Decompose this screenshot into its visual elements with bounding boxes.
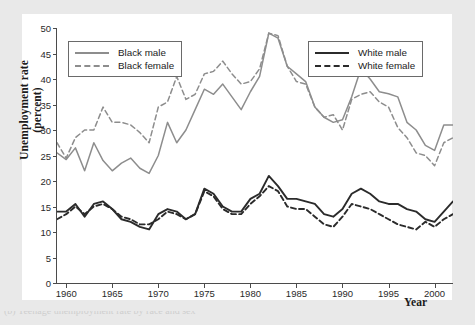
y-axis-tick-label: 0 bbox=[46, 278, 51, 289]
y-axis-tick-mark bbox=[53, 79, 58, 80]
legend-black: Black male Black female bbox=[68, 41, 182, 77]
y-axis-tick-label: 20 bbox=[40, 176, 51, 187]
y-axis-title-line1: Unemployment rate bbox=[18, 60, 30, 160]
x-axis-tick-mark bbox=[435, 283, 436, 288]
x-axis-tick-label: 1990 bbox=[332, 288, 353, 299]
line-solid-gray-icon bbox=[75, 48, 109, 58]
y-axis-tick-label: 35 bbox=[40, 99, 51, 110]
x-axis-tick-mark bbox=[158, 283, 159, 288]
series-line bbox=[57, 186, 453, 229]
line-dashed-gray-icon bbox=[75, 61, 109, 71]
x-axis-tick-label: 1975 bbox=[194, 288, 215, 299]
y-axis-tick-label: 5 bbox=[46, 252, 51, 263]
figure-caption-text: (b) Teenage unemployment rate by race an… bbox=[4, 311, 196, 316]
legend-white: White male White female bbox=[308, 41, 423, 77]
x-axis-tick-mark bbox=[389, 283, 390, 288]
y-axis-tick-label: 40 bbox=[40, 74, 51, 85]
y-axis-tick-mark bbox=[53, 283, 58, 284]
line-dashed-black-icon bbox=[315, 61, 349, 71]
legend-item: White female bbox=[315, 59, 415, 72]
x-axis-tick-label: 1965 bbox=[102, 288, 123, 299]
x-axis-tick-mark bbox=[250, 283, 251, 288]
x-axis-tick-label: 1985 bbox=[286, 288, 307, 299]
x-axis-tick-label: 1995 bbox=[378, 288, 399, 299]
y-axis-tick-mark bbox=[53, 207, 58, 208]
line-solid-black-icon bbox=[315, 48, 349, 58]
y-axis-tick-mark bbox=[53, 28, 58, 29]
legend-item-label: White male bbox=[358, 47, 407, 58]
legend-item-label: Black male bbox=[118, 47, 166, 58]
x-axis-tick-label: 2000 bbox=[424, 288, 445, 299]
x-axis-tick-mark bbox=[296, 283, 297, 288]
x-axis-tick-label: 1970 bbox=[148, 288, 169, 299]
legend-item-label: White female bbox=[358, 60, 415, 71]
y-axis-tick-label: 50 bbox=[40, 23, 51, 34]
y-axis-tick-mark bbox=[53, 130, 58, 131]
y-axis-tick-label: 15 bbox=[40, 201, 51, 212]
y-axis-tick-mark bbox=[53, 258, 58, 259]
y-axis-tick-mark bbox=[53, 156, 58, 157]
x-axis-tick-mark bbox=[342, 283, 343, 288]
y-axis-tick-label: 45 bbox=[40, 48, 51, 59]
x-axis-tick-label: 1980 bbox=[240, 288, 261, 299]
legend-item: Black female bbox=[75, 59, 174, 72]
y-axis-tick-label: 30 bbox=[40, 125, 51, 136]
chart-figure: Unemployment rate (percent) 051015202530… bbox=[0, 0, 475, 325]
y-axis-tick-label: 10 bbox=[40, 227, 51, 238]
x-axis-tick-mark bbox=[66, 283, 67, 288]
x-axis-title: Year bbox=[404, 296, 427, 308]
x-axis-tick-label: 1960 bbox=[56, 288, 77, 299]
y-axis-tick-mark bbox=[53, 54, 58, 55]
y-axis-tick-mark bbox=[53, 181, 58, 182]
y-axis-tick-mark bbox=[53, 232, 58, 233]
y-axis-tick-mark bbox=[53, 105, 58, 106]
y-axis-tick-label: 25 bbox=[40, 150, 51, 161]
legend-item: Black male bbox=[75, 46, 174, 59]
legend-item-label: Black female bbox=[118, 60, 174, 71]
x-axis-tick-mark bbox=[204, 283, 205, 288]
figure-caption: (b) Teenage unemployment rate by race an… bbox=[0, 311, 475, 325]
legend-item: White male bbox=[315, 46, 415, 59]
x-axis-tick-mark bbox=[112, 283, 113, 288]
